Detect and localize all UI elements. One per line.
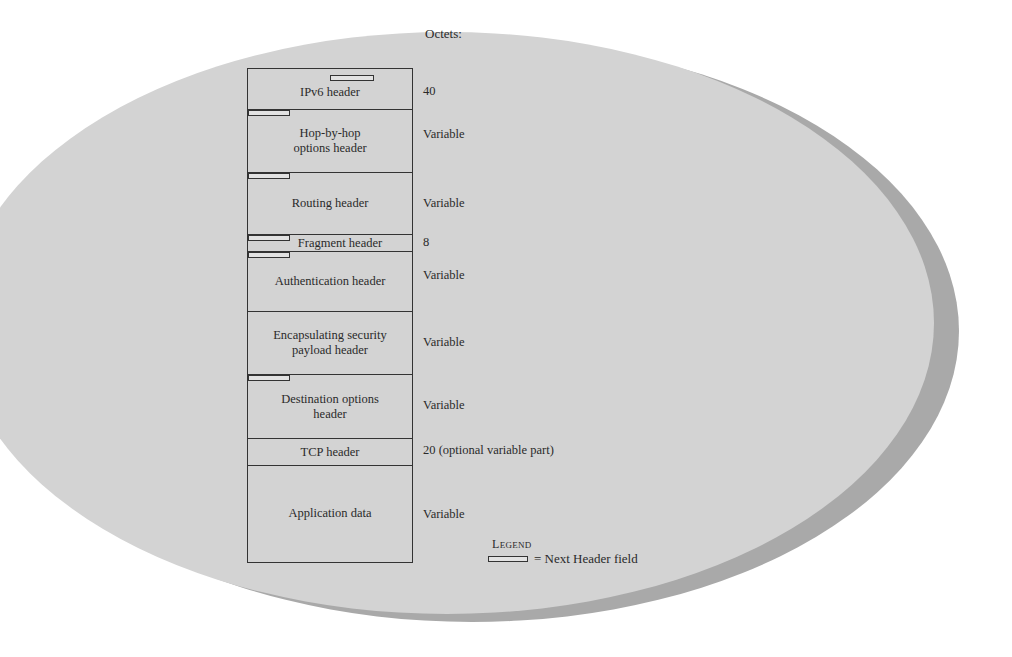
octet-size-authentication: Variable xyxy=(423,268,465,283)
segment-label-line2: header xyxy=(313,407,346,422)
legend-entry: = Next Header field xyxy=(488,551,638,567)
segment-esp-header: Encapsulating security payload header xyxy=(248,312,412,375)
segment-label-line1: Hop-by-hop xyxy=(299,126,360,141)
octet-size-tcp: 20 (optional variable part) xyxy=(423,443,554,458)
next-header-field-icon xyxy=(488,556,528,562)
ellipse-fill xyxy=(0,32,934,614)
next-header-field-icon xyxy=(330,75,374,81)
next-header-field-icon xyxy=(248,110,290,116)
segment-tcp-header: TCP header xyxy=(248,439,412,466)
segment-label-line2: options header xyxy=(293,141,366,156)
octet-size-routing: Variable xyxy=(423,196,465,211)
segment-label: Authentication header xyxy=(275,274,386,289)
segment-label: Application data xyxy=(289,506,372,521)
octet-size-hop-by-hop: Variable xyxy=(423,127,465,142)
legend-title-initial: L xyxy=(492,537,500,551)
packet-stack: IPv6 header Hop-by-hop options header Ro… xyxy=(247,68,413,563)
segment-label: IPv6 header xyxy=(300,85,360,100)
octet-size-application-data: Variable xyxy=(423,507,465,522)
next-header-field-icon xyxy=(248,235,290,241)
segment-routing-header: Routing header xyxy=(248,173,412,235)
octets-heading: Octets: xyxy=(425,26,462,42)
segment-label-line1: Encapsulating security xyxy=(273,328,387,343)
octet-size-destination-options: Variable xyxy=(423,398,465,413)
octet-size-ipv6: 40 xyxy=(423,84,436,99)
legend-title: LEGEND xyxy=(492,537,532,552)
segment-application-data: Application data xyxy=(248,466,412,561)
segment-label: TCP header xyxy=(301,445,360,460)
next-header-field-icon xyxy=(248,375,290,381)
segment-hop-by-hop-header: Hop-by-hop options header xyxy=(248,110,412,173)
segment-destination-options-header: Destination options header xyxy=(248,375,412,439)
segment-label: Routing header xyxy=(292,196,369,211)
segment-authentication-header: Authentication header xyxy=(248,252,412,312)
next-header-field-icon xyxy=(248,252,290,258)
octet-size-esp: Variable xyxy=(423,335,465,350)
segment-label-line1: Destination options xyxy=(281,392,379,407)
legend-entry-label: = Next Header field xyxy=(534,551,638,567)
octet-size-fragment: 8 xyxy=(423,235,429,250)
segment-label-line2: payload header xyxy=(292,343,368,358)
segment-label: Fragment header xyxy=(278,236,382,251)
legend-title-rest: EGEND xyxy=(500,540,532,550)
next-header-field-icon xyxy=(248,173,290,179)
